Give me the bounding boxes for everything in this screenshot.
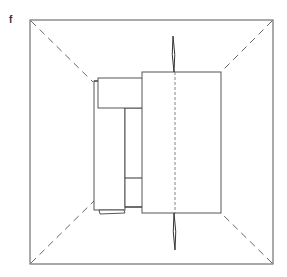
diagonal-bottom-left <box>31 200 95 263</box>
diagonal-bottom-right <box>222 214 272 263</box>
diagram-canvas <box>0 0 287 277</box>
bottom-needle <box>173 213 176 250</box>
main-block <box>142 72 221 213</box>
top-needle <box>172 36 175 72</box>
middle-column <box>125 108 143 207</box>
diagonal-top-left <box>31 21 93 82</box>
bottom-base-plate <box>99 210 125 214</box>
diagonal-top-right <box>221 21 272 72</box>
upper-crossbar-block <box>98 78 143 108</box>
